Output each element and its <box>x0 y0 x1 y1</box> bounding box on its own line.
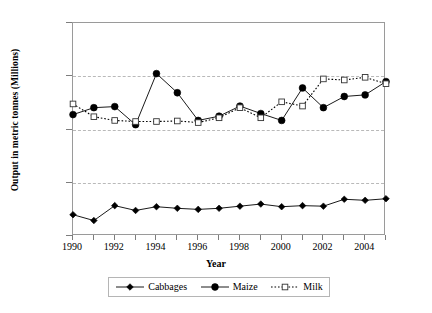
x-axis-tick-mark <box>239 235 240 240</box>
series-cabbages <box>70 195 390 223</box>
chart-legend: CabbagesMaizeMilk <box>108 277 330 297</box>
data-point <box>383 195 390 202</box>
data-point <box>258 115 264 121</box>
data-point <box>341 196 348 203</box>
data-point <box>299 202 306 209</box>
legend-item-maize[interactable]: Maize <box>200 282 258 292</box>
x-axis-tick-mark <box>155 235 156 240</box>
data-point <box>362 75 368 81</box>
data-point <box>279 99 285 105</box>
legend-label: Maize <box>233 282 258 292</box>
y-axis-title: Output in metric tonnes (Millions) <box>10 49 20 192</box>
data-point <box>91 114 97 120</box>
x-axis-tick-mark <box>385 235 386 240</box>
data-point <box>320 104 327 111</box>
x-axis-tick-mark <box>176 235 177 240</box>
legend-item-milk[interactable]: Milk <box>270 282 322 292</box>
x-axis-title: Year <box>0 258 432 269</box>
x-axis-tick-mark <box>364 235 365 240</box>
data-point <box>133 119 139 125</box>
series-line <box>73 77 386 122</box>
data-point <box>362 91 369 98</box>
data-point <box>111 202 118 209</box>
data-point <box>174 89 181 96</box>
x-axis-tick-mark <box>72 235 73 240</box>
data-point <box>278 203 285 210</box>
data-point <box>111 103 118 110</box>
data-point <box>154 119 160 125</box>
data-point <box>91 217 98 224</box>
series-layer <box>73 23 386 236</box>
data-point <box>237 203 244 210</box>
legend-key-icon <box>200 282 230 292</box>
data-point <box>278 117 285 124</box>
y-axis-title-container: Output in metric tonnes (Millions) <box>2 0 28 240</box>
legend-key-icon <box>115 282 145 292</box>
x-axis-tick-mark <box>197 235 198 240</box>
x-axis-tick-mark <box>302 235 303 240</box>
x-axis-tick-mark <box>343 235 344 240</box>
data-point <box>237 105 243 111</box>
data-point <box>383 81 389 87</box>
x-axis-tick-label: 2004 <box>339 241 389 252</box>
data-point <box>153 203 160 210</box>
data-point <box>321 76 327 82</box>
legend-label: Milk <box>303 282 322 292</box>
data-point <box>90 104 97 111</box>
data-point <box>195 120 201 126</box>
line-chart: Output in metric tonnes (Millions) 0.01.… <box>0 0 432 313</box>
data-point <box>70 111 77 118</box>
x-axis-tick-mark <box>260 235 261 240</box>
data-point <box>216 115 222 121</box>
data-point <box>341 93 348 100</box>
data-point <box>320 203 327 210</box>
series-line <box>73 74 386 125</box>
x-axis-tick-mark <box>218 235 219 240</box>
legend-label: Cabbages <box>148 282 187 292</box>
x-axis-tick-mark <box>93 235 94 240</box>
data-point <box>153 70 160 77</box>
data-point <box>300 103 306 109</box>
data-point <box>174 205 181 212</box>
plot-area <box>72 22 385 235</box>
x-axis-tick-mark <box>114 235 115 240</box>
x-axis-tick-mark <box>281 235 282 240</box>
data-point <box>70 211 77 218</box>
data-point <box>258 201 265 208</box>
series-milk <box>70 75 389 126</box>
legend-key-icon <box>270 282 300 292</box>
legend-item-cabbages[interactable]: Cabbages <box>115 282 187 292</box>
data-point <box>195 206 202 213</box>
data-point <box>70 101 76 107</box>
data-point <box>175 118 181 124</box>
data-point <box>341 77 347 83</box>
x-axis-tick-mark <box>322 235 323 240</box>
series-line <box>73 199 386 221</box>
data-point <box>299 85 306 92</box>
data-point <box>362 197 369 204</box>
x-axis-tick-mark <box>135 235 136 240</box>
data-point <box>132 207 139 214</box>
data-point <box>216 205 223 212</box>
data-point <box>112 118 118 124</box>
